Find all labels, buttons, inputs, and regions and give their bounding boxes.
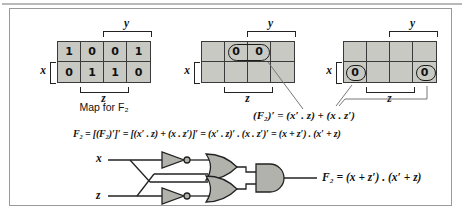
kmap-cell [225, 62, 248, 82]
formula-derivation: F₂ = [(F₂)′]′ = [(x′ . z) + (x . z′)]′ =… [73, 128, 341, 139]
kmap3-group-oval-right [416, 65, 436, 81]
circuit-input-x-label: x [96, 152, 102, 164]
kmap-cell: 0 [127, 62, 150, 82]
kmap1-y-bracket [103, 31, 152, 37]
kmap2-z-label: z [224, 92, 271, 104]
kmap-cell [202, 62, 225, 82]
kmap-cell [271, 42, 294, 62]
formula-complement: (F₂)′ = (x′ . z) + (x . z′) [253, 109, 355, 121]
kmap-cell: 1 [104, 62, 127, 82]
kmap1-x-bracket [50, 62, 56, 84]
kmap2-x-bracket [194, 62, 200, 84]
kmap-cell [271, 62, 294, 82]
kmap-cell [390, 42, 413, 62]
kmap2-y-label: y [247, 17, 294, 29]
kmap-cell [390, 62, 413, 82]
kmap1-grid: 1 0 0 1 0 1 1 0 [57, 41, 151, 83]
kmap2-x-label: x [182, 64, 192, 76]
figure-stage: y 1 0 0 1 0 1 1 0 x z Map for F₂ y 0 0 x… [0, 0, 465, 218]
kmap-cell [344, 42, 367, 62]
kmap3-y-label: y [389, 17, 436, 29]
kmap3-z-label: z [366, 92, 413, 104]
kmap-cell: 1 [81, 62, 104, 82]
kmap-cell [202, 42, 225, 62]
kmap3-x-bracket [336, 62, 342, 84]
kmap1-x-label: x [38, 64, 48, 76]
kmap2-group-oval [228, 44, 270, 61]
kmap-cell [367, 62, 390, 82]
circuit-input-z-label: z [96, 189, 100, 201]
kmap-cell [413, 42, 436, 62]
kmap-cell: 0 [58, 62, 81, 82]
kmap-cell [248, 62, 271, 82]
kmap-cell: 0 [104, 42, 127, 62]
kmap-cell [367, 42, 390, 62]
kmap3-y-bracket [389, 31, 438, 37]
top-rule [2, 3, 462, 5]
kmap1-y-label: y [103, 17, 150, 29]
kmap3-group-oval-left [346, 65, 366, 81]
kmap3-x-label: x [324, 64, 334, 76]
kmap-cell: 1 [58, 42, 81, 62]
kmap1-caption: Map for F₂ [48, 101, 160, 113]
kmap-cell: 1 [127, 42, 150, 62]
kmap-cell: 0 [81, 42, 104, 62]
kmap2-y-bracket [247, 31, 296, 37]
circuit-output-label: F₂ = (x + z′) . (x′ + z) [322, 171, 421, 183]
